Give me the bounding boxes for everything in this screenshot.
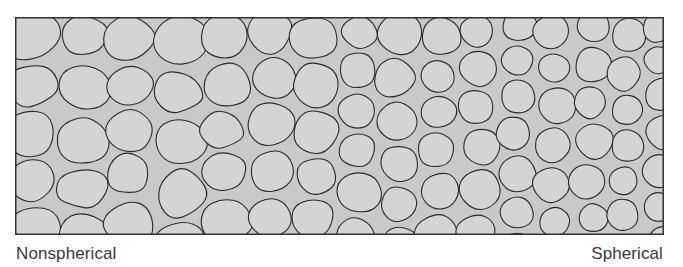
grain-shapes — [15, 17, 664, 235]
spherical-label: Spherical — [591, 244, 663, 264]
grain-diagram — [15, 17, 664, 235]
nonspherical-label: Nonspherical — [16, 244, 116, 264]
